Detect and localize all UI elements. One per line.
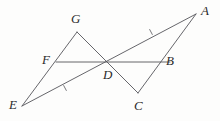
geometry-diagram-canvas xyxy=(0,0,220,121)
vertex-label-F: F xyxy=(42,53,50,66)
vertex-label-E: E xyxy=(9,98,17,111)
tick-mark-ED xyxy=(64,86,67,91)
vertex-label-D: D xyxy=(103,68,112,81)
vertex-label-B: B xyxy=(166,54,174,67)
tick-mark-DA xyxy=(150,30,153,35)
vertex-label-A: A xyxy=(201,4,209,17)
vertex-label-C: C xyxy=(134,99,143,112)
segment-G-C xyxy=(77,32,138,93)
geometry-figure: G A F D B E C xyxy=(0,0,220,121)
segment-E-G xyxy=(22,32,77,106)
vertex-label-G: G xyxy=(71,12,80,25)
